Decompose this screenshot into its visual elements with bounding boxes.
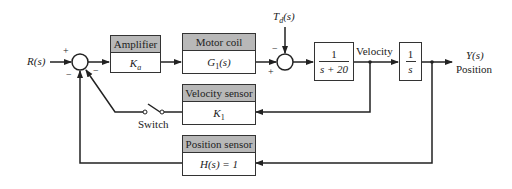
position-sensor-title: Position sensor [183,136,255,153]
plant-block: 1 s + 20 [314,42,354,81]
amplifier-block: Amplifier Ka [110,35,161,73]
velocity-sensor-block: Velocity sensor K1 [182,84,256,125]
velocity-sensor-gain: K1 [183,102,255,129]
motor-coil-block: Motor coil G1(s) [182,33,256,74]
integrator-block: 1 s [399,42,422,81]
motor-coil-title: Motor coil [183,34,255,51]
switch-label: Switch [138,119,169,130]
integrator-numerator: 1 [408,48,414,60]
sum1-minus-sign-position: − [66,70,72,80]
amplifier-gain: Ka [111,53,160,78]
plant-numerator: 1 [331,48,337,60]
sum1-minus-sign-velocity: − [93,66,99,76]
input-label: R(s) [27,56,45,67]
velocity-sensor-title: Velocity sensor [183,85,255,102]
integrator-denominator: s [408,63,412,75]
output-label: Y(s) [466,50,484,61]
motor-coil-tf: G1(s) [183,51,255,78]
disturbance-label: Td(s) [273,11,295,25]
sum2-plus-sign: + [268,67,274,77]
plant-denominator: s + 20 [320,63,348,75]
position-sensor-block: Position sensor H(s) = 1 [182,135,256,176]
diagram-wires [0,0,512,189]
output-sublabel: Position [456,64,492,75]
amplifier-title: Amplifier [111,36,160,53]
sum2-minus-sign: − [272,44,278,54]
position-sensor-tf: H(s) = 1 [183,153,255,176]
sum1-plus-sign: + [63,46,69,56]
velocity-label: Velocity [356,46,393,57]
